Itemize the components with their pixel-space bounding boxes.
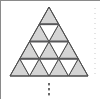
triangle-subdivision-figure bbox=[0, 0, 100, 99]
triangle-cell-up bbox=[39, 7, 59, 24]
ellipsis-dot bbox=[48, 83, 50, 85]
ellipsis-dot bbox=[48, 88, 50, 90]
vertical-ellipsis-icon bbox=[48, 83, 50, 95]
ellipsis-dot bbox=[48, 93, 50, 95]
figure-container: A large equilateral triangle subdivided … bbox=[0, 0, 100, 99]
